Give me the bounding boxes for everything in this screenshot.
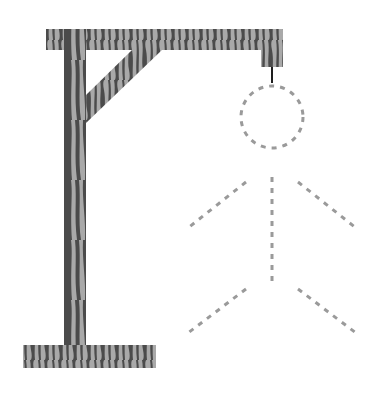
hangman-canvas [0, 0, 381, 402]
gallows [23, 29, 283, 368]
figure-head [241, 86, 303, 148]
gallows-post [64, 29, 86, 349]
gallows-brace [86, 50, 162, 123]
hangman-figure-outline [188, 86, 356, 333]
figure-left-leg [188, 289, 246, 333]
gallows-beam-drop [261, 29, 283, 67]
figure-left-arm [188, 182, 246, 228]
gallows-base [23, 345, 156, 368]
hangman-drawing [0, 0, 381, 402]
figure-right-arm [298, 182, 356, 228]
figure-right-leg [298, 289, 356, 333]
